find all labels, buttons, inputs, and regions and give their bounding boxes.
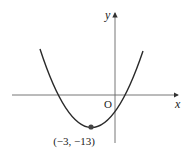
origin-label: O: [104, 98, 112, 110]
parabola-diagram: y x O (−3, −13): [0, 0, 192, 152]
parabola-curve: [40, 49, 143, 128]
vertex-point: [88, 124, 93, 129]
y-axis-label: y: [104, 8, 111, 22]
vertex-label: (−3, −13): [53, 135, 95, 148]
x-axis-label: x: [174, 97, 181, 111]
